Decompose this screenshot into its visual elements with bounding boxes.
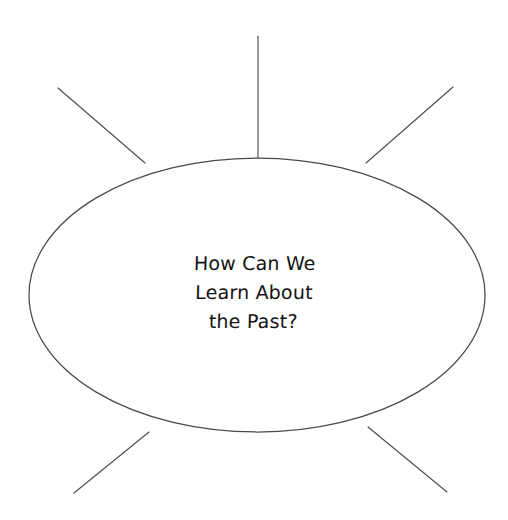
central-idea-ellipse (29, 158, 485, 432)
ray-top-left (58, 88, 145, 163)
ray-top-right (366, 87, 453, 163)
concept-web-diagram (0, 0, 508, 520)
ray-bottom-right (368, 427, 447, 492)
worksheet-canvas: How Can We Learn About the Past? (0, 0, 508, 520)
ray-bottom-left (74, 432, 149, 493)
